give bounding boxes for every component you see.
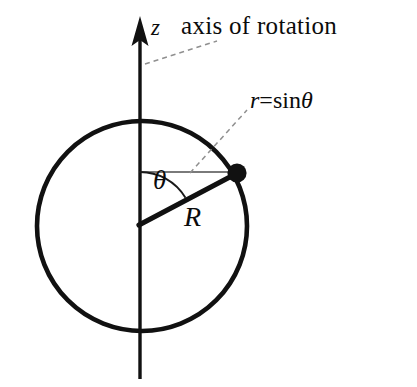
diagram-canvas: z axis of rotation r=sinθ θ R xyxy=(0,0,417,387)
r-formula-variable: r xyxy=(250,87,259,113)
r-formula-argument: θ xyxy=(301,87,313,113)
r-formula-equals: = xyxy=(259,87,273,113)
radius-label-R: R xyxy=(184,203,201,231)
angle-label-theta: θ xyxy=(153,167,166,194)
r-formula-label: r=sinθ xyxy=(250,88,313,112)
r-formula-function: sin xyxy=(273,87,301,113)
diagram-svg xyxy=(0,0,417,387)
axis-of-rotation-label: axis of rotation xyxy=(181,13,337,38)
axis-label-z: z xyxy=(151,16,160,39)
leader-line-axis xyxy=(145,41,217,64)
surface-point-dot xyxy=(227,163,246,182)
